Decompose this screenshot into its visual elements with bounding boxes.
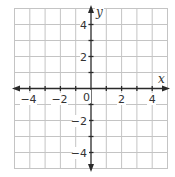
x-axis-label: x bbox=[158, 72, 165, 86]
y-tick-label: −2 bbox=[71, 115, 87, 128]
x-tick-label: 4 bbox=[149, 93, 156, 106]
origin-label: 0 bbox=[83, 91, 90, 104]
x-tick-label: −2 bbox=[51, 93, 67, 106]
y-tick-label: 2 bbox=[80, 51, 87, 64]
x-axis-left-arrow-icon bbox=[12, 86, 20, 92]
coordinate-grid: −4 −2 0 2 4 4 2 −2 −4 y x bbox=[0, 0, 175, 177]
x-tick-label: 2 bbox=[118, 93, 125, 106]
y-tick-label: 4 bbox=[80, 19, 87, 32]
x-axis-right-arrow-icon bbox=[162, 86, 170, 92]
x-tick-label: −4 bbox=[20, 93, 36, 106]
y-axis-label: y bbox=[95, 5, 103, 19]
y-tick-label: −4 bbox=[71, 147, 87, 160]
